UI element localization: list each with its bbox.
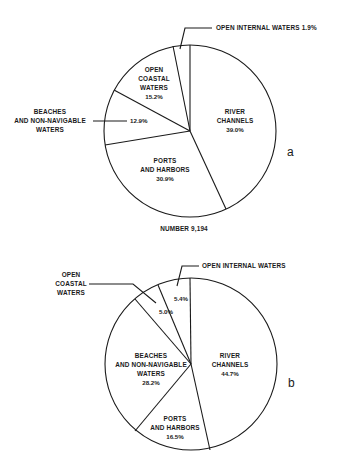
pie-chart-a: RIVER CHANNELS 39.0% PORTS AND HARBORS 3…	[14, 24, 317, 233]
value-label: 30.9%	[156, 175, 174, 182]
label-line: PORTS	[154, 157, 177, 164]
label-line: OPEN	[145, 66, 164, 73]
label-line: WATERS	[137, 370, 165, 377]
value-label: 15.2%	[145, 93, 163, 100]
label-line: AND HARBORS	[140, 166, 190, 173]
value-label: 39.0%	[226, 126, 244, 133]
label-line: BEACHES	[34, 108, 67, 115]
label-line: BEACHES	[135, 352, 168, 359]
value-label: 28.2%	[142, 379, 160, 386]
panel-label-a: a	[287, 145, 294, 159]
label-line: CHANNELS	[212, 361, 249, 368]
value-label: 5.0%	[159, 308, 174, 315]
label-line: COASTAL	[138, 75, 169, 82]
label-line: OPEN	[62, 271, 81, 278]
label-line: WATERS	[36, 126, 64, 133]
label-line: COASTAL	[55, 280, 86, 287]
label-line: CHANNELS	[217, 117, 254, 124]
label-line: WATERS	[57, 289, 85, 296]
pie-charts-figure: RIVER CHANNELS 39.0% PORTS AND HARBORS 3…	[0, 0, 337, 451]
label-line: OPEN INTERNAL WATERS	[202, 262, 286, 269]
label-line: AND NON-NAVIGABLE	[14, 117, 86, 124]
label-line: RIVER	[220, 352, 241, 359]
pie-chart-b: RIVER CHANNELS 44.7% BEACHES AND NON-NAV…	[55, 262, 295, 450]
value-label: 16.5%	[166, 433, 184, 440]
label-line: WATERS	[140, 84, 168, 91]
value-label: 44.7%	[221, 370, 239, 377]
value-label: 12.9%	[130, 117, 148, 124]
panel-label-b: b	[288, 376, 295, 390]
label-line: PORTS	[164, 415, 187, 422]
label-line: RIVER	[225, 108, 246, 115]
value-label: 5.4%	[174, 295, 189, 302]
label-line: AND NON-NAVIGABLE	[115, 361, 187, 368]
sample-size-label: NUMBER 9,194	[160, 225, 208, 233]
label-line: OPEN INTERNAL WATERS 1.9%	[216, 24, 317, 31]
label-line: AND HARBORS	[150, 424, 200, 431]
